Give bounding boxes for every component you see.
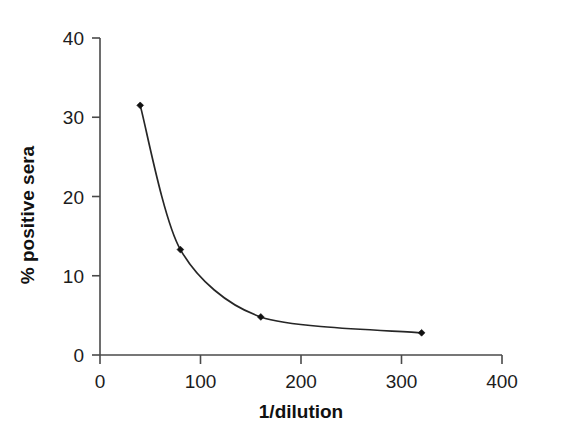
y-tick-label: 0	[73, 345, 84, 366]
x-tick-label: 200	[285, 371, 317, 392]
x-tick-label: 0	[95, 371, 106, 392]
data-point-marker	[137, 102, 144, 109]
x-axis-tick-labels: 0100200300400	[95, 371, 518, 392]
x-tick-label: 400	[486, 371, 518, 392]
data-point-marker	[177, 246, 184, 253]
y-tick-label: 20	[63, 187, 84, 208]
data-point-marker	[257, 314, 264, 321]
chart-plot-area: 010203040 0100200300400 1/dilution % pos…	[0, 0, 573, 444]
y-axis-title: % positive sera	[17, 145, 38, 284]
data-point-marker	[418, 329, 425, 336]
y-axis-tick-labels: 010203040	[63, 28, 84, 366]
x-tick-label: 300	[386, 371, 418, 392]
data-series-line	[140, 105, 421, 332]
x-axis-ticks	[100, 355, 502, 364]
y-tick-label: 40	[63, 28, 84, 49]
data-series-markers	[137, 102, 425, 336]
x-axis-title: 1/dilution	[259, 401, 343, 422]
y-axis-ticks	[92, 38, 100, 355]
y-tick-label: 30	[63, 107, 84, 128]
x-tick-label: 100	[185, 371, 217, 392]
chart-figure: 010203040 0100200300400 1/dilution % pos…	[0, 0, 573, 444]
y-tick-label: 10	[63, 266, 84, 287]
